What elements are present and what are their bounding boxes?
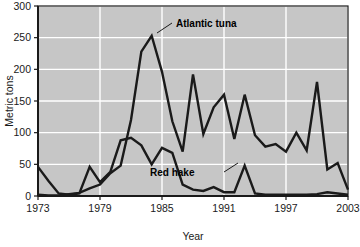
y-tick-label: 0 bbox=[25, 190, 31, 202]
x-tick-label: 1991 bbox=[212, 202, 236, 214]
y-tick-label: 50 bbox=[19, 158, 31, 170]
y-tick-label: 300 bbox=[13, 0, 31, 12]
red-hake-label: Red hake bbox=[150, 167, 195, 178]
x-axis-title: Year bbox=[182, 230, 204, 242]
y-tick-label: 250 bbox=[13, 31, 31, 43]
line-chart-svg: 050100150200250300 197319791985199119972… bbox=[0, 0, 360, 247]
y-axis-title: Metric tons bbox=[3, 75, 15, 126]
y-tick-label: 200 bbox=[13, 63, 31, 75]
x-tick-label: 1985 bbox=[150, 202, 174, 214]
y-tick-label: 150 bbox=[13, 95, 31, 107]
atlantic-tuna-label: Atlantic tuna bbox=[176, 18, 237, 29]
x-tick-label: 1979 bbox=[88, 202, 112, 214]
x-tick-label: 1997 bbox=[274, 202, 298, 214]
chart-figure: 050100150200250300 197319791985199119972… bbox=[0, 0, 360, 247]
x-tick-label: 2003 bbox=[336, 202, 360, 214]
y-tick-label: 100 bbox=[13, 126, 31, 138]
x-tick-label: 1973 bbox=[26, 202, 50, 214]
